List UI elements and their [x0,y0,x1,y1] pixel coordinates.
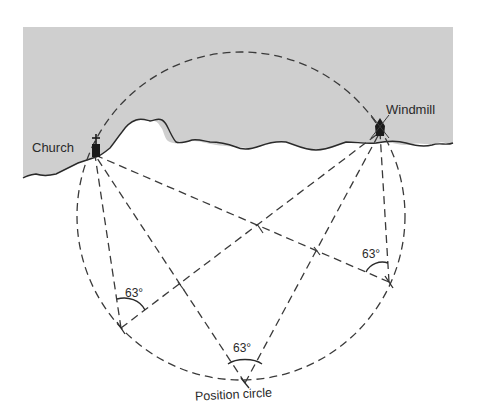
position-circle-diagram: Church Windmill 63° 63° 63° Position cir… [0,0,478,417]
vertex-marks [117,276,393,388]
angle-label-left: 63° [125,286,143,300]
windmill-label: Windmill [386,102,435,117]
sight-line-left-church [95,155,121,328]
sight-line-left-windmill [121,132,380,328]
sight-line-right-church [95,155,389,282]
church-label: Church [32,140,74,155]
sight-line-right-windmill [380,132,389,282]
angle-label-right: 63° [362,247,380,261]
angle-arc-right [366,262,388,272]
sight-line-bottom-windmill [245,132,380,383]
church-icon [92,134,100,157]
sight-line-bottom-church [95,155,245,383]
intersection-ticks [178,224,320,290]
position-circle-caption: Position circle [195,386,273,404]
angle-label-bottom: 63° [233,341,251,355]
angle-arc-bottom [228,360,262,365]
